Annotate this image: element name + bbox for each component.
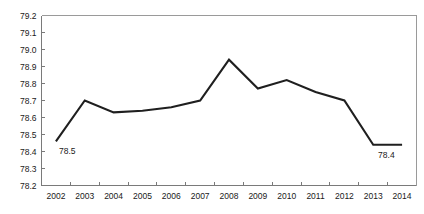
x-axis-tick-label: 2009: [248, 191, 267, 201]
y-axis-tick-label: 78.2: [20, 181, 37, 191]
x-axis-tick-label: 2004: [104, 191, 123, 201]
x-axis-tick-marks: [42, 182, 417, 186]
x-axis-tick-label: 2011: [306, 191, 325, 201]
y-axis-tick-label: 78.5: [20, 130, 37, 140]
axis-frame: [42, 16, 417, 186]
x-axis-tick-label: 2012: [335, 191, 354, 201]
y-axis-tick-label: 79.2: [20, 11, 37, 21]
line-chart: 79.279.179.078.978.878.778.678.578.478.3…: [0, 0, 424, 214]
x-axis-tick-label: 2007: [191, 191, 210, 201]
y-axis-tick-labels: 79.279.179.078.978.878.778.678.578.478.3…: [20, 11, 37, 191]
x-axis-tick-label: 2008: [220, 191, 239, 201]
y-axis-tick-label: 79.1: [20, 28, 37, 38]
x-axis-tick-label: 2005: [133, 191, 152, 201]
data-point-label: 78.5: [59, 146, 76, 156]
x-axis-tick-label: 2002: [46, 191, 65, 201]
x-axis-tick-label: 2014: [393, 191, 412, 201]
y-axis-tick-label: 78.3: [20, 164, 37, 174]
y-axis-tick-label: 78.9: [20, 62, 37, 72]
data-point-annotations: 78.578.4: [59, 146, 395, 159]
data-point-label: 78.4: [378, 150, 395, 160]
data-series-line: [56, 60, 402, 145]
y-axis-tick-label: 78.8: [20, 79, 37, 89]
x-axis-tick-labels: 2002200320042005200620072008200920102011…: [46, 191, 411, 201]
y-axis-tick-label: 79.0: [20, 45, 37, 55]
x-axis-tick-label: 2006: [162, 191, 181, 201]
chart-plot-area: 79.279.179.078.978.878.778.678.578.478.3…: [0, 0, 424, 214]
y-axis-tick-label: 78.7: [20, 96, 37, 106]
y-axis-tick-label: 78.4: [20, 147, 37, 157]
x-axis-tick-label: 2003: [75, 191, 94, 201]
y-axis-tick-label: 78.6: [20, 113, 37, 123]
x-axis-tick-label: 2013: [364, 191, 383, 201]
x-axis-tick-label: 2010: [277, 191, 296, 201]
